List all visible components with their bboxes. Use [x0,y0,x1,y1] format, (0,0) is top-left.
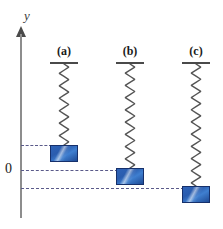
spring-system-c-label: (c) [189,44,202,59]
level-line-zero [21,170,118,171]
mass-block-b [116,168,144,185]
spring-coil-c [191,64,202,186]
axis-origin-label: 0 [5,161,12,177]
spring-coil-a [59,64,70,145]
y-axis-label: y [24,8,30,24]
mass-block-c [182,186,210,203]
mass-block-a [50,145,78,162]
y-axis-line [20,34,22,218]
spring-coil-b [125,64,136,168]
spring-mass-diagram: y 0 (a) (b) (c) [0,0,223,229]
spring-system-b-label: (b) [123,44,138,59]
level-line-a [21,145,52,146]
level-line-c [21,188,184,189]
spring-system-a-label: (a) [57,44,71,59]
